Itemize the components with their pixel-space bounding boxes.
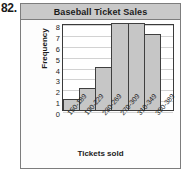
y-tick-label: 4 (46, 68, 60, 76)
y-tick-label: 8 (46, 24, 60, 32)
chart-title: Baseball Ticket Sales (54, 7, 148, 17)
x-axis-title: Tickets sold (21, 149, 180, 158)
problem-number: 82. (1, 1, 17, 15)
y-tick-label: 6 (46, 46, 60, 54)
y-tick-label: 0 (46, 111, 60, 119)
y-tick-label: 5 (46, 57, 60, 65)
chart-figure: Baseball Ticket Sales Frequency 01234567… (20, 3, 181, 169)
y-tick-label: 3 (46, 78, 60, 86)
y-tick-label: 1 (46, 100, 60, 108)
y-tick-label: 7 (46, 35, 60, 43)
y-axis-tick-labels: 012345678 (46, 20, 60, 115)
x-axis-tick-labels: 150-189190-229230-269270-309310-349350-3… (62, 112, 174, 152)
y-tick-label: 2 (46, 89, 60, 97)
